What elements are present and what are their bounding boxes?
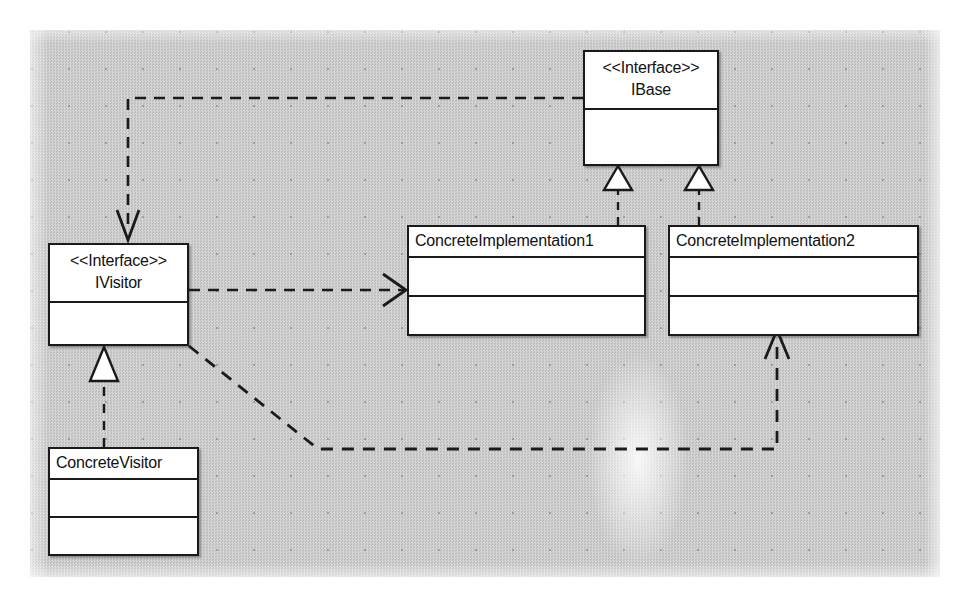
class-header-concretevisitor: ConcreteVisitor — [50, 449, 197, 478]
class-attributes-compartment — [409, 256, 644, 295]
class-name-label: ConcreteImplementation2 — [676, 230, 855, 252]
stereotype-label: <<Interface>> — [602, 57, 699, 79]
class-box-concreteimplementation2[interactable]: ConcreteImplementation2 — [668, 225, 919, 336]
class-name-label: ConcreteVisitor — [56, 452, 162, 474]
class-name-label: IVisitor — [95, 272, 142, 294]
class-name-label: IBase — [631, 79, 671, 101]
class-header-concreteimplementation2: ConcreteImplementation2 — [670, 227, 917, 256]
class-operations-compartment — [50, 516, 197, 554]
class-attributes-compartment — [670, 256, 917, 295]
class-header-concreteimplementation1: ConcreteImplementation1 — [409, 227, 644, 256]
stereotype-label: <<Interface>> — [70, 250, 167, 272]
class-box-concretevisitor[interactable]: ConcreteVisitor — [48, 447, 199, 556]
class-box-ivisitor[interactable]: <<Interface>> IVisitor — [48, 243, 189, 346]
class-header-ivisitor: <<Interface>> IVisitor — [50, 245, 187, 301]
class-attributes-compartment — [585, 108, 717, 164]
class-operations-compartment — [409, 295, 644, 334]
class-name-label: ConcreteImplementation1 — [415, 230, 594, 252]
class-header-ibase: <<Interface>> IBase — [585, 52, 717, 108]
class-operations-compartment — [670, 295, 917, 334]
class-attributes-compartment — [50, 478, 197, 516]
class-box-concreteimplementation1[interactable]: ConcreteImplementation1 — [407, 225, 646, 336]
uml-diagram: <<Interface>> IBase <<Interface>> IVisit… — [0, 0, 970, 597]
class-attributes-compartment — [50, 301, 187, 344]
class-box-ibase[interactable]: <<Interface>> IBase — [583, 50, 719, 166]
